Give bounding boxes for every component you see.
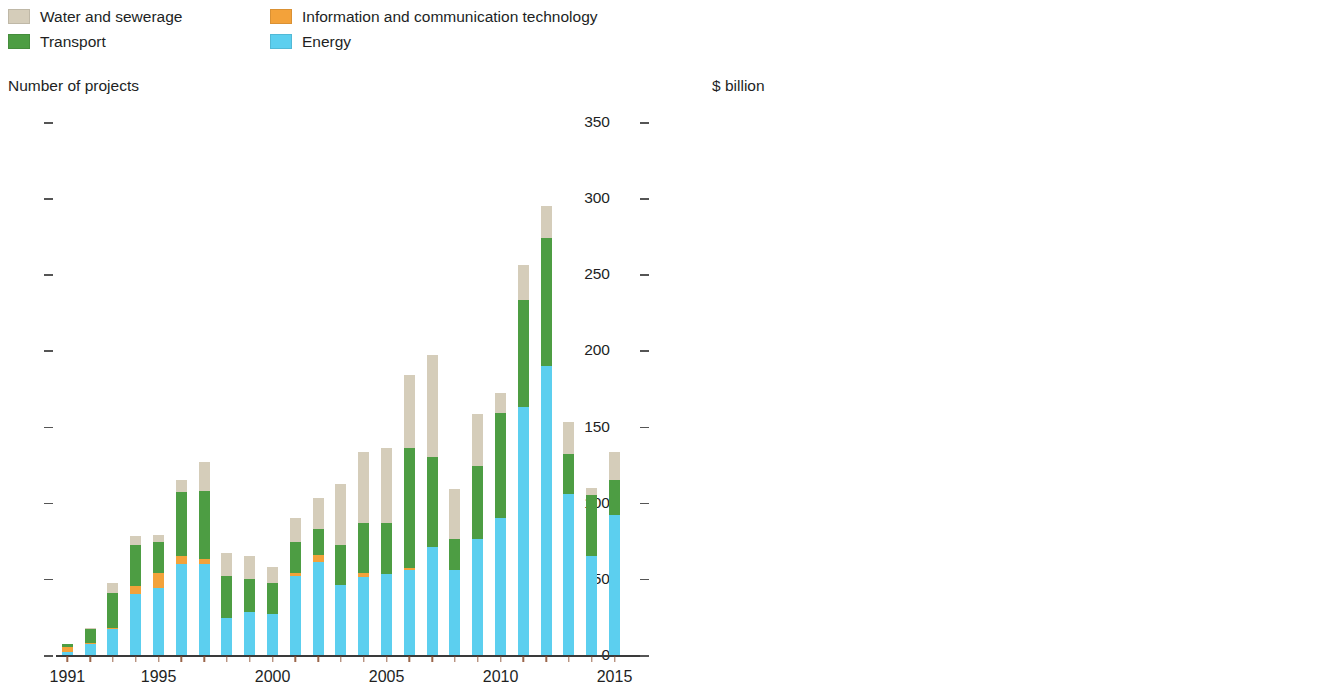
bar-slot xyxy=(352,122,375,655)
bar-segment-ict xyxy=(313,555,324,563)
stacked-bar[interactable] xyxy=(609,452,620,655)
legend-item-energy: Energy xyxy=(270,34,351,50)
stacked-bar[interactable] xyxy=(130,536,141,655)
bar-segment-water xyxy=(267,567,278,584)
x-tick xyxy=(261,656,284,664)
y-tick-mark-right xyxy=(640,350,649,352)
stacked-bar[interactable] xyxy=(335,484,346,655)
bar-segment-water xyxy=(358,452,369,522)
x-tick-mark xyxy=(135,656,136,662)
stacked-bar[interactable] xyxy=(381,448,392,655)
bar-slot xyxy=(398,122,421,655)
bar-segment-water xyxy=(609,452,620,479)
stacked-bar[interactable] xyxy=(199,462,210,655)
x-tick-mark xyxy=(112,656,113,662)
x-tick xyxy=(284,656,307,664)
x-tick xyxy=(603,656,626,664)
stacked-bar[interactable] xyxy=(85,628,96,655)
y-tick-mark-left xyxy=(44,579,53,581)
x-tick xyxy=(398,656,421,664)
bar-segment-transport xyxy=(107,593,118,628)
bar-segment-water xyxy=(221,553,232,576)
x-tick-mark xyxy=(203,656,204,662)
left-chart-axis-title: Number of projects xyxy=(8,78,139,94)
bar-slot xyxy=(147,122,170,655)
bar-segment-energy xyxy=(358,577,369,655)
bar-segment-transport xyxy=(449,539,460,569)
stacked-bar[interactable] xyxy=(267,567,278,655)
x-tick-mark xyxy=(454,656,455,662)
x-label-slot xyxy=(330,669,353,685)
legend-label-water: Water and sewerage xyxy=(40,9,182,25)
legend-swatch-transport-icon xyxy=(8,34,30,49)
bar-segment-transport xyxy=(381,523,392,575)
x-tick-mark xyxy=(386,656,387,662)
x-label-slot xyxy=(558,669,581,685)
x-label-slot xyxy=(79,669,102,685)
x-tick xyxy=(147,656,170,664)
bar-segment-transport xyxy=(404,448,415,568)
bar-segment-water xyxy=(541,206,552,238)
bar-segment-energy xyxy=(335,585,346,655)
bar-slot xyxy=(216,122,239,655)
x-tick xyxy=(466,656,489,664)
x-tick xyxy=(489,656,512,664)
stacked-bar[interactable] xyxy=(586,488,597,656)
bar-slot xyxy=(170,122,193,655)
stacked-bar[interactable] xyxy=(449,489,460,655)
bar-slot xyxy=(124,122,147,655)
bar-segment-water xyxy=(107,583,118,592)
y-tick-mark-left xyxy=(44,655,53,657)
x-label-slot xyxy=(421,669,444,685)
stacked-bar[interactable] xyxy=(518,265,529,655)
bar-segment-energy xyxy=(495,518,506,655)
x-label-slot xyxy=(307,669,330,685)
bar-segment-water xyxy=(495,393,506,413)
bar-segment-transport xyxy=(153,542,164,572)
bar-segment-water xyxy=(153,535,164,543)
stacked-bar[interactable] xyxy=(107,583,118,655)
stacked-bar[interactable] xyxy=(495,393,506,655)
bar-slot xyxy=(375,122,398,655)
bar-slot xyxy=(489,122,512,655)
bar-segment-transport xyxy=(244,579,255,613)
bar-segment-transport xyxy=(130,545,141,586)
x-tick xyxy=(580,656,603,664)
stacked-bar[interactable] xyxy=(313,498,324,655)
stacked-bar[interactable] xyxy=(153,535,164,655)
stacked-bar[interactable] xyxy=(427,355,438,655)
x-axis-label: 2015 xyxy=(597,669,633,685)
stacked-bar[interactable] xyxy=(62,644,73,655)
x-label-slot: 1995 xyxy=(147,669,170,685)
x-tick-mark xyxy=(295,656,296,662)
x-tick xyxy=(535,656,558,664)
stacked-bar[interactable] xyxy=(244,556,255,655)
x-tick-mark xyxy=(409,656,410,662)
stacked-bar[interactable] xyxy=(176,480,187,655)
legend-label-transport: Transport xyxy=(40,34,106,50)
x-tick-mark xyxy=(431,656,432,662)
stacked-bar[interactable] xyxy=(290,518,301,655)
stacked-bar[interactable] xyxy=(541,206,552,655)
x-label-slot xyxy=(284,669,307,685)
bar-segment-water xyxy=(381,448,392,523)
bar-slot xyxy=(444,122,467,655)
bar-segment-transport xyxy=(221,576,232,619)
x-tick-mark xyxy=(181,656,182,662)
stacked-bar[interactable] xyxy=(563,422,574,655)
x-label-slot: 2000 xyxy=(261,669,284,685)
bar-slot xyxy=(102,122,125,655)
legend-label-energy: Energy xyxy=(302,34,351,50)
stacked-bar[interactable] xyxy=(404,375,415,655)
bar-segment-water xyxy=(404,375,415,448)
x-tick-mark xyxy=(249,656,250,662)
bar-segment-water xyxy=(130,536,141,545)
stacked-bar[interactable] xyxy=(221,553,232,655)
y-tick-mark-right xyxy=(640,427,649,429)
stacked-bar[interactable] xyxy=(358,452,369,655)
bar-segment-energy xyxy=(107,629,118,655)
legend-item-water-and-sewerage: Water and sewerage xyxy=(8,9,182,25)
bar-segment-energy xyxy=(586,556,597,655)
bar-segment-transport xyxy=(199,491,210,560)
stacked-bar[interactable] xyxy=(472,414,483,655)
